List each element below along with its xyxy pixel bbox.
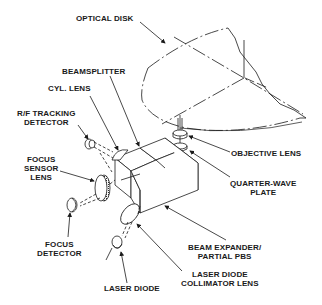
label-line: SENSOR xyxy=(24,164,58,173)
label-line: LASER DIODE xyxy=(181,270,259,279)
label-beamsplitter: BEAMSPLITTER xyxy=(62,67,125,76)
label-line: PARTIAL PBS xyxy=(188,252,261,261)
optical-pickup-diagram: OPTICAL DISK BEAMSPLITTER CYL. LENS R/F … xyxy=(0,0,322,305)
label-line: DETECTOR xyxy=(37,249,82,258)
label-cyl-lens: CYL. LENS xyxy=(48,84,91,93)
label-optical-disk: OPTICAL DISK xyxy=(76,14,134,23)
label-line: COLLIMATOR LENS xyxy=(181,279,259,288)
focus-sensor-lens-drawing xyxy=(80,175,115,206)
label-line: BEAM EXPANDER/ xyxy=(188,243,261,252)
optical-disk xyxy=(142,28,306,131)
rf-tracking-detector-drawing xyxy=(85,139,113,172)
label-focus-detector: FOCUS DETECTOR xyxy=(37,240,82,258)
label-line: R/F TRACKING xyxy=(17,109,76,118)
label-beam-expander: BEAM EXPANDER/ PARTIAL PBS xyxy=(188,243,261,261)
label-line: FOCUS xyxy=(37,240,82,249)
laser-diode-drawing xyxy=(106,236,122,260)
focus-detector-drawing xyxy=(67,198,77,212)
label-line: LENS xyxy=(24,173,58,182)
label-line: QUARTER-WAVE xyxy=(230,179,296,188)
label-laser-diode: LASER DIODE xyxy=(104,284,160,293)
label-collimator-lens: LASER DIODE COLLIMATOR LENS xyxy=(181,270,259,288)
label-focus-sensor-lens: FOCUS SENSOR LENS xyxy=(24,155,58,182)
label-line: FOCUS xyxy=(24,155,58,164)
collimator-lens-drawing xyxy=(117,200,143,238)
beamsplitter-block xyxy=(115,138,198,213)
label-rf-tracking-detector: R/F TRACKING DETECTOR xyxy=(17,109,76,127)
label-line: DETECTOR xyxy=(17,118,76,127)
label-objective-lens: OBJECTIVE LENS xyxy=(231,149,301,158)
label-line: PLATE xyxy=(230,188,296,197)
label-quarter-wave-plate: QUARTER-WAVE PLATE xyxy=(230,179,296,197)
